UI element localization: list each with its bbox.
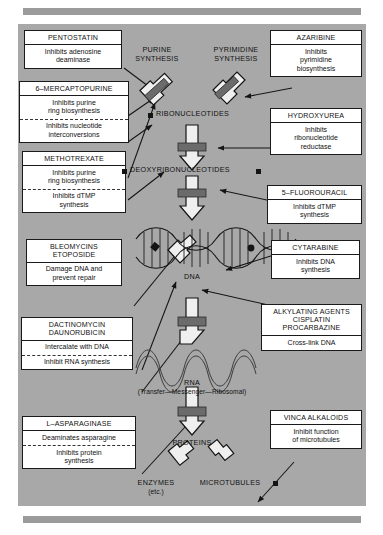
- label-dna: DNA: [168, 273, 216, 282]
- block-ribonucleotide-reductase: [178, 143, 206, 151]
- drug-box-cytarabine[interactable]: CYTARABINE Inhibits DNA synthesis: [271, 240, 360, 279]
- label-rna-types: (Transfer—Messenger—Ribosomal): [104, 388, 280, 397]
- drug-effect: Inhibits purine ring biosynthesis: [23, 166, 125, 188]
- drug-name: DACTINOMYCIN DAUNORUBICIN: [22, 318, 132, 341]
- drug-box-methotrexate[interactable]: METHOTREXATE Inhibits purine ring biosyn…: [22, 151, 126, 213]
- drug-effect: Inhibits dTMP synthesis: [268, 200, 361, 222]
- drug-effect: Inhibits DNA synthesis: [272, 255, 359, 277]
- drug-name: 5–FLUOROURACIL: [268, 186, 361, 200]
- label-enzymes-etc: (etc.): [126, 488, 186, 497]
- drug-box-5-fluorouracil[interactable]: 5–FLUOROURACIL Inhibits dTMP synthesis: [267, 185, 362, 224]
- label-ribonucleotides: RIBONUCLEOTIDES: [156, 110, 266, 119]
- figure-page: PENTOSTATIN Inhibits adenosine deaminase…: [0, 0, 383, 535]
- label-proteins: PROTEINS: [158, 439, 226, 448]
- drug-name: ALKYLATING AGENTS CISPLATIN PROCARBAZINE: [262, 305, 361, 336]
- drug-box-vinca-alkaloids[interactable]: VINCA ALKALOIDS Inhibit function of micr…: [270, 410, 362, 449]
- drug-box-dactinomycin-daunorubicin[interactable]: DACTINOMYCIN DAUNORUBICIN Intercalate wi…: [21, 317, 133, 370]
- drug-effect: Inhibit function of microtubules: [271, 425, 361, 447]
- diagram-canvas: PENTOSTATIN Inhibits adenosine deaminase…: [18, 24, 366, 506]
- drug-effect: Inhibits dTMP synthesis: [23, 189, 125, 212]
- drug-box-hydroxyurea[interactable]: HYDROXYUREA Inhibits ribonucleotide redu…: [270, 108, 362, 155]
- drug-name: 6–MERCAPTOPURINE: [20, 82, 128, 96]
- drug-effect: Deaminates asparagine: [23, 431, 135, 445]
- drug-effect: Inhibits ribonucleotide reductase: [271, 123, 361, 154]
- drug-box-bleomycins-etoposide[interactable]: BLEOMYCINS ETOPOSIDE Damage DNA and prev…: [26, 239, 122, 286]
- marker-square-ribonucleotides: [148, 113, 153, 118]
- label-enzymes: ENZYMES: [126, 479, 186, 488]
- marker-square-deoxy-left: [122, 169, 127, 174]
- drug-effect: Inhibit RNA synthesis: [22, 355, 132, 370]
- drug-box-6-mercaptopurine[interactable]: 6–MERCAPTOPURINE Inhibits purine ring bi…: [19, 81, 129, 143]
- drug-name: PENTOSTATIN: [25, 31, 121, 45]
- block-dtmp-synthesis: [178, 189, 206, 197]
- drug-name: BLEOMYCINS ETOPOSIDE: [27, 240, 121, 263]
- marker-square-microtubules: [273, 481, 278, 486]
- drug-box-alkylating-agents[interactable]: ALKYLATING AGENTS CISPLATIN PROCARBAZINE…: [261, 304, 362, 351]
- label-pyrimidine-synthesis: PYRIMIDINE SYNTHESIS: [196, 46, 276, 63]
- drug-box-l-asparaginase[interactable]: L–ASPARAGINASE Deaminates asparagine Inh…: [22, 416, 136, 469]
- drug-name: L–ASPARAGINASE: [23, 417, 135, 431]
- block-translation: [178, 407, 206, 416]
- top-rule: [23, 8, 361, 15]
- drug-effect: Intercalate with DNA: [22, 341, 132, 355]
- drug-name: VINCA ALKALOIDS: [271, 411, 361, 425]
- drug-name: CYTARABINE: [272, 241, 359, 255]
- block-transcription: [178, 317, 206, 326]
- drug-connectors: [124, 68, 294, 502]
- drug-effect: Inhibits purine ring biosynthesis: [20, 96, 128, 118]
- drug-effect: Cross-link DNA: [262, 336, 361, 350]
- drug-name: METHOTREXATE: [23, 152, 125, 166]
- drug-effect: Inhibits adenosine deaminase: [25, 45, 121, 67]
- label-purine-synthesis: PURINE SYNTHESIS: [122, 46, 192, 63]
- label-deoxyribonucleotides: DEOXYRIBONUCLEOTIDES: [130, 166, 260, 175]
- drug-effect: Inhibits pyrimidine biosynthesis: [271, 45, 361, 76]
- bottom-rule: [23, 516, 361, 523]
- drug-box-azaribine[interactable]: AZARIBINE Inhibits pyrimidine biosynthes…: [270, 30, 362, 77]
- marker-square-deoxy-right: [256, 169, 261, 174]
- drug-effect: Inhibits protein synthesis: [23, 445, 135, 468]
- label-microtubules: MICROTUBULES: [188, 479, 272, 488]
- drug-box-pentostatin[interactable]: PENTOSTATIN Inhibits adenosine deaminase: [24, 30, 122, 69]
- drug-name: HYDROXYUREA: [271, 109, 361, 123]
- drug-name: AZARIBINE: [271, 31, 361, 45]
- label-rna: RNA: [168, 379, 216, 388]
- drug-effect: Damage DNA and prevent repair: [27, 263, 121, 285]
- drug-effect: Inhibits nucleotide interconversions: [20, 119, 128, 142]
